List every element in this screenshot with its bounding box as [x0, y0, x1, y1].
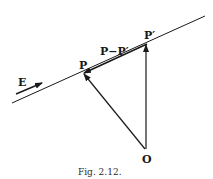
label-p-minus-pprime: P−P′: [100, 45, 129, 58]
figure-caption: Fig. 2.12.: [78, 167, 122, 177]
label-o: O: [142, 153, 152, 166]
label-e: E: [18, 76, 26, 89]
line-of-charge: [12, 16, 205, 103]
o-to-p-arrow: [84, 74, 145, 149]
label-pprime: P′: [144, 29, 155, 42]
vector-diagram: E P P−P′ P′ O Fig. 2.12.: [0, 0, 213, 179]
label-p: P: [79, 59, 87, 72]
